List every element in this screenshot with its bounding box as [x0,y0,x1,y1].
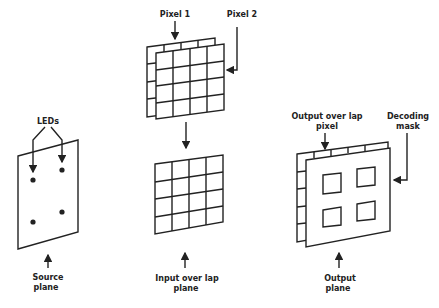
output-plane: Output over lap pixel Decoding mask Outp… [291,112,429,293]
pixel1-label: Pixel 1 [160,10,191,19]
pixel2-arrow [227,27,237,70]
source-label-line2: plane [34,283,60,292]
overlap-pixel-label-line1: Output over lap [291,112,362,121]
input-label-line1: Input over lap [155,274,219,283]
input-overlap-plane: Input over lap plane [155,155,223,293]
mask-label-line2: mask [396,122,420,131]
led-dot [30,177,35,182]
led-dot [59,167,64,172]
output-label-line1: Output [324,274,356,283]
pixel2-label: Pixel 2 [227,10,257,19]
leds-label: LEDs [37,117,59,126]
mask-label-line1: Decoding [387,112,429,121]
pixel-planes: Pixel 1 Pixel 2 [147,10,257,148]
diagram-canvas: LEDs Source plane Pixel 1 Pixel 2 [0,0,439,308]
led-dot [59,209,64,214]
source-label-line1: Source [32,273,64,282]
mask-arrow [394,133,407,180]
output-label-line2: plane [326,284,352,293]
overlap-pixel-label-line2: pixel [316,122,338,131]
input-label-line2: plane [174,284,200,293]
source-plane: LEDs Source plane [18,117,78,292]
led-dot [30,219,35,224]
